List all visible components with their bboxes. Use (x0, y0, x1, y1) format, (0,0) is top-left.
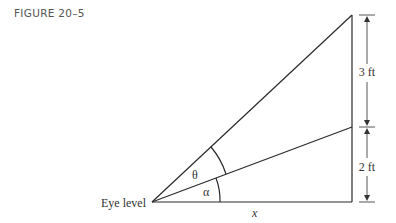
alpha-label: α (203, 185, 210, 199)
theta-arc (211, 147, 226, 174)
triangle (152, 15, 352, 202)
diagram-canvas: 3 ft 2 ft Eye level θ α x (0, 0, 396, 223)
lower-sightline (152, 127, 352, 202)
alpha-arc (216, 178, 220, 202)
lower-dimension-label: 2 ft (359, 160, 376, 174)
x-label: x (251, 206, 258, 220)
upper-sightline (152, 15, 352, 202)
upper-dimension-label: 3 ft (359, 65, 376, 79)
eye-level-label: Eye level (101, 196, 147, 210)
theta-label: θ (192, 168, 198, 182)
